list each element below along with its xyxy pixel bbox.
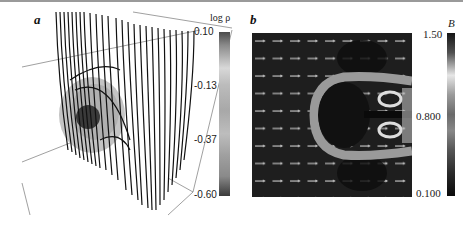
- colorbar-a-tick: -0.37: [194, 134, 217, 145]
- panel-b-label: b: [250, 12, 257, 28]
- colorbar-b: [447, 33, 455, 196]
- colorbar-a-tick: -0.60: [194, 189, 217, 200]
- colorbar-b-tick: 0.100: [416, 187, 441, 199]
- field-map-b: [252, 33, 412, 197]
- colorbar-b-title: B: [448, 17, 455, 29]
- colorbar-a-tick: -0.13: [194, 80, 217, 91]
- field-map-graphic: [252, 33, 412, 197]
- colorbar-a-tick: 0.10: [194, 26, 213, 37]
- panel-a: a log ρ 0.10 -0.13 -0.37 -0: [0, 0, 240, 225]
- colorbar-a: [219, 32, 230, 196]
- colorbar-b-tick: 0.800: [416, 110, 441, 122]
- colorbar-b-tick: 1.50: [423, 28, 442, 40]
- colorbar-a-title: log ρ: [210, 12, 230, 23]
